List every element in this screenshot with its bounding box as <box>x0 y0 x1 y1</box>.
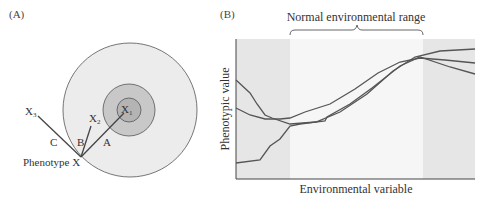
normal-range-label: Normal environmental range <box>287 10 426 24</box>
y-axis-label: Phenotypic value <box>218 68 232 151</box>
panel-b-chart: Normal environmental range Environmental… <box>218 10 475 196</box>
figure-canvas: X1 X2 X3 A B C Phenotype X Normal enviro… <box>0 0 494 201</box>
point-x3-label: X3 <box>25 105 37 119</box>
vector-c-label: C <box>50 136 57 148</box>
normal-range-region <box>290 39 423 179</box>
x-axis-label: Environmental variable <box>300 182 413 196</box>
vector-a-label: A <box>103 136 111 148</box>
vector-b-label: B <box>77 136 84 148</box>
panel-a-diagram: X1 X2 X3 A B C Phenotype X <box>23 43 197 177</box>
phenotype-x-label: Phenotype X <box>23 156 80 168</box>
low-shaded-region <box>236 39 290 179</box>
normal-range-bracket <box>290 25 423 35</box>
